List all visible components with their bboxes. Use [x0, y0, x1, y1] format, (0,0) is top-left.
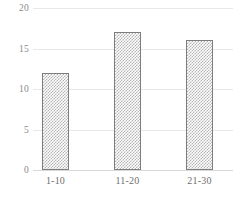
- y-axis: 20 15 10 5 0: [0, 0, 29, 202]
- bar-21-30[interactable]: [186, 40, 213, 170]
- x-axis: 1-10 11-20 21-30: [33, 174, 233, 192]
- bar-11-20[interactable]: [114, 32, 141, 170]
- y-tick-label-20: 20: [5, 4, 29, 14]
- y-tick-label-5: 5: [5, 126, 29, 136]
- bar-chart: 20 15 10 5 0 1-10 11-20 21-30: [0, 0, 237, 202]
- x-tick-label-3: 21-30: [170, 174, 230, 188]
- y-tick-label-15: 15: [5, 45, 29, 55]
- gridline-0-baseline: [33, 170, 233, 171]
- bars-layer: [33, 8, 233, 170]
- bar-1-10[interactable]: [42, 73, 69, 170]
- y-tick-label-10: 10: [5, 85, 29, 95]
- x-tick-label-1: 1-10: [26, 174, 86, 188]
- x-tick-label-2: 11-20: [98, 174, 158, 188]
